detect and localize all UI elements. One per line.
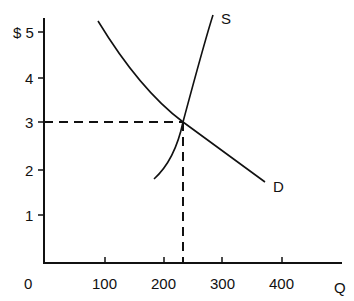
y-tick-label-1: 1 <box>25 207 33 224</box>
x-tick-label-300: 300 <box>210 275 235 292</box>
x-tick-label-400: 400 <box>269 275 294 292</box>
y-tick-label-5: $ 5 <box>13 24 34 41</box>
supply-demand-chart: $ 5 4 3 2 1 0 100 200 300 400 Q S D <box>0 0 354 301</box>
demand-label: D <box>273 178 284 195</box>
y-tick-label-3: 3 <box>25 114 33 131</box>
x-axis-label: Q <box>334 279 346 296</box>
y-tick-label-4: 4 <box>25 70 33 87</box>
x-tick-label-100: 100 <box>92 275 117 292</box>
demand-curve <box>98 21 265 182</box>
y-tick-label-2: 2 <box>25 162 33 179</box>
x-tick-label-200: 200 <box>151 275 176 292</box>
supply-label: S <box>221 10 231 27</box>
origin-label: 0 <box>24 275 32 292</box>
